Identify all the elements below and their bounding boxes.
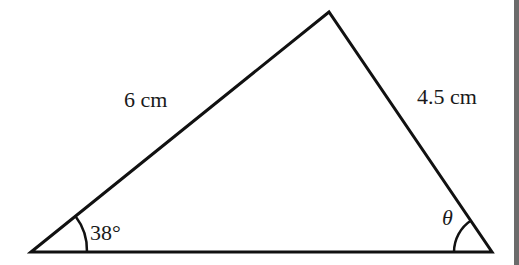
- left-angle-arc: [76, 216, 88, 252]
- right-side-label: 4.5 cm: [417, 84, 477, 109]
- right-angle-arc: [454, 221, 471, 253]
- triangle-diagram: 6 cm 4.5 cm 38° θ: [0, 0, 519, 265]
- right-angle-label: θ: [442, 205, 453, 230]
- right-edge-bar: [514, 0, 519, 265]
- left-side-label: 6 cm: [124, 87, 167, 112]
- left-angle-label: 38°: [90, 220, 121, 245]
- triangle-shape: [31, 12, 492, 252]
